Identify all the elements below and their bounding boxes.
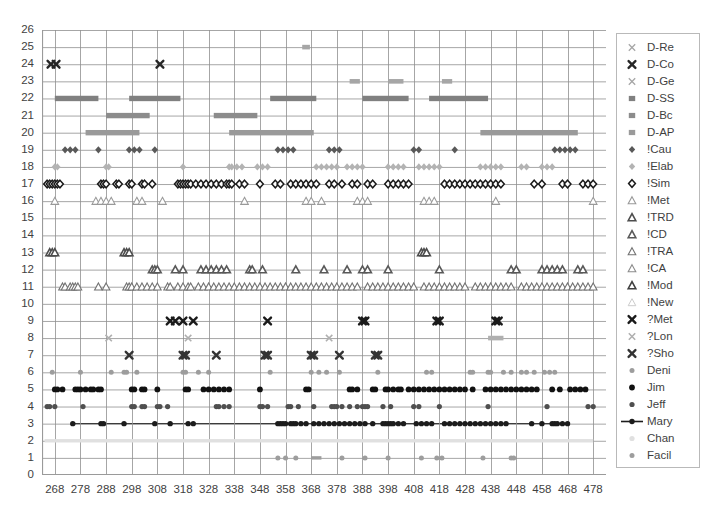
legend-item-dco[interactable]: D-Co xyxy=(617,56,699,73)
legend-marker-icon xyxy=(617,430,647,447)
series-dbc xyxy=(106,113,257,118)
series-segment xyxy=(302,45,310,50)
legend-item-label: !Elab xyxy=(647,161,673,173)
y-axis-tick-label: 13 xyxy=(6,247,34,259)
legend-item-label: ?Met xyxy=(647,314,673,326)
legend-item-sim[interactable]: !Sim xyxy=(617,175,699,192)
series-dre xyxy=(302,45,310,50)
legend-marker-icon xyxy=(617,124,647,141)
y-axis-tick-label: 18 xyxy=(6,161,34,173)
legend-marker-icon xyxy=(617,243,647,260)
legend-marker-icon xyxy=(617,226,647,243)
legend-item-new[interactable]: !New xyxy=(617,294,699,311)
legend-item-label: Facil xyxy=(647,450,671,462)
y-axis-tick-label: 1 xyxy=(6,452,34,464)
y-axis-tick-label: 23 xyxy=(6,75,34,87)
legend-marker-icon xyxy=(617,396,647,413)
series-segment xyxy=(270,96,316,101)
legend-item-label: Chan xyxy=(647,433,675,445)
y-axis-tick-label: 26 xyxy=(6,24,34,36)
plot-svg xyxy=(42,30,606,475)
legend-item-met[interactable]: ?Met xyxy=(617,311,699,328)
legend-item-label: !Met xyxy=(647,195,669,207)
legend-item-facil[interactable]: Facil xyxy=(617,447,699,464)
legend-item-label: D-Bc xyxy=(647,110,673,122)
legend-marker-icon xyxy=(617,90,647,107)
legend-item-met[interactable]: !Met xyxy=(617,192,699,209)
legend-marker-icon xyxy=(617,379,647,396)
legend-item-label: D-SS xyxy=(647,93,674,105)
series-lon xyxy=(105,335,503,341)
series-segment xyxy=(45,439,594,442)
legend-item-chan[interactable]: Chan xyxy=(617,430,699,447)
y-axis-tick-label: 12 xyxy=(6,264,34,276)
legend-item-mary[interactable]: Mary xyxy=(617,413,699,430)
legend-marker-icon xyxy=(617,107,647,124)
series-segment xyxy=(429,96,488,101)
legend-item-dre[interactable]: D-Re xyxy=(617,39,699,56)
series-sim xyxy=(44,180,597,188)
legend-marker-icon xyxy=(617,175,647,192)
y-axis-tick-label: 19 xyxy=(6,144,34,156)
legend-item-tra[interactable]: !TRA xyxy=(617,243,699,260)
legend-item-dge[interactable]: D-Ge xyxy=(617,73,699,90)
series-segment xyxy=(362,96,408,101)
legend-marker-icon xyxy=(617,413,647,430)
legend-marker-icon xyxy=(617,39,647,56)
legend-marker-icon xyxy=(617,158,647,175)
legend-item-mod[interactable]: !Mod xyxy=(617,277,699,294)
series-segment xyxy=(229,130,314,135)
legend-item-dss[interactable]: D-SS xyxy=(617,90,699,107)
y-axis-tick-label: 5 xyxy=(6,383,34,395)
y-axis-tick-label: 9 xyxy=(6,315,34,327)
series-met xyxy=(51,197,597,204)
legend-item-label: Jim xyxy=(647,382,665,394)
series-segment xyxy=(311,456,321,459)
legend-item-trd[interactable]: !TRD xyxy=(617,209,699,226)
series-dap xyxy=(86,130,578,135)
series-segment xyxy=(86,130,140,135)
scatter-chart: 0123456789101112131415161718192021222324… xyxy=(0,0,706,506)
legend-marker-icon xyxy=(617,192,647,209)
legend-item-label: Jeff xyxy=(647,399,665,411)
legend-item-dap[interactable]: D-AP xyxy=(617,124,699,141)
legend-item-label: Deni xyxy=(647,365,671,377)
series-segment xyxy=(129,96,180,101)
series-chan xyxy=(45,439,594,442)
series-jeff xyxy=(45,404,596,409)
y-axis-tick-label: 21 xyxy=(6,110,34,122)
legend-item-label: !CA xyxy=(647,263,666,275)
legend-item-cd[interactable]: !CD xyxy=(617,226,699,243)
legend-marker-icon xyxy=(617,56,647,73)
legend: D-ReD-CoD-GeD-SSD-BcD-AP!Cau!Elab!Sim!Me… xyxy=(616,33,700,468)
y-axis-tick-label: 6 xyxy=(6,366,34,378)
legend-marker-icon xyxy=(617,277,647,294)
series-dco xyxy=(48,61,164,68)
series-segment xyxy=(488,336,503,341)
y-axis-tick-label: 4 xyxy=(6,401,34,413)
legend-item-sho[interactable]: ?Sho xyxy=(617,345,699,362)
legend-marker-icon xyxy=(617,328,647,345)
legend-marker-icon xyxy=(617,141,647,158)
legend-item-elab[interactable]: !Elab xyxy=(617,158,699,175)
series-dss xyxy=(55,96,488,101)
legend-item-dbc[interactable]: D-Bc xyxy=(617,107,699,124)
y-axis-tick-label: 7 xyxy=(6,349,34,361)
legend-item-ca[interactable]: !CA xyxy=(617,260,699,277)
legend-item-cau[interactable]: !Cau xyxy=(617,141,699,158)
plot-area xyxy=(42,30,606,475)
y-axis-tick-label: 17 xyxy=(6,178,34,190)
legend-item-label: D-Ge xyxy=(647,76,674,88)
legend-item-deni[interactable]: Deni xyxy=(617,362,699,379)
x-axis-tick-label: 478 xyxy=(576,484,610,496)
legend-item-jim[interactable]: Jim xyxy=(617,379,699,396)
series-deni xyxy=(50,370,557,375)
y-axis-tick-label: 22 xyxy=(6,92,34,104)
legend-item-jeff[interactable]: Jeff xyxy=(617,396,699,413)
legend-item-label: !Mod xyxy=(647,280,673,292)
series-segment xyxy=(442,79,452,84)
legend-item-lon[interactable]: ?Lon xyxy=(617,328,699,345)
legend-item-label: D-Re xyxy=(647,42,674,54)
legend-marker-icon xyxy=(617,294,647,311)
series-trd xyxy=(46,249,430,256)
